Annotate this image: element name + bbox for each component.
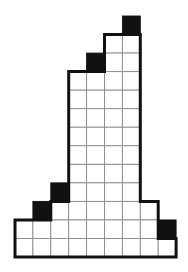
empty-cell [122, 109, 140, 128]
empty-cell [122, 53, 140, 72]
shaded-cell [33, 201, 51, 220]
empty-cell [105, 220, 123, 239]
empty-cell [105, 183, 123, 202]
empty-cell [122, 90, 140, 109]
empty-cell [69, 164, 87, 183]
empty-cell [69, 220, 87, 239]
empty-cell [105, 238, 123, 257]
empty-cell [51, 220, 69, 239]
empty-cell [122, 35, 140, 54]
empty-cell [158, 238, 176, 257]
empty-cell [105, 164, 123, 183]
empty-cell [69, 90, 87, 109]
empty-cell [105, 127, 123, 146]
empty-cell [69, 238, 87, 257]
empty-cell [87, 109, 105, 128]
empty-cell [122, 183, 140, 202]
empty-cell [33, 238, 51, 257]
empty-cell [33, 220, 51, 239]
empty-cell [140, 201, 158, 220]
empty-cell [69, 183, 87, 202]
empty-cell [105, 201, 123, 220]
empty-cell [105, 35, 123, 54]
empty-cell [105, 53, 123, 72]
empty-cell [122, 220, 140, 239]
shaded-cell [87, 53, 105, 72]
empty-cell [87, 146, 105, 165]
empty-cell [87, 238, 105, 257]
empty-cell [87, 220, 105, 239]
empty-cell [122, 201, 140, 220]
shaded-cell [51, 183, 69, 202]
empty-cell [105, 146, 123, 165]
empty-cell [87, 127, 105, 146]
empty-cell [15, 238, 33, 257]
empty-cell [69, 72, 87, 91]
empty-cell [87, 201, 105, 220]
grid-figure [0, 0, 188, 272]
empty-cell [105, 109, 123, 128]
empty-cell [122, 146, 140, 165]
empty-cell [69, 146, 87, 165]
empty-cell [15, 220, 33, 239]
empty-cell [140, 238, 158, 257]
empty-cell [87, 183, 105, 202]
empty-cell [87, 72, 105, 91]
shaded-cell [122, 16, 140, 35]
empty-cell [87, 164, 105, 183]
empty-cell [122, 72, 140, 91]
shaded-cell [158, 220, 176, 239]
empty-cell [105, 72, 123, 91]
empty-cell [105, 90, 123, 109]
empty-cell [140, 220, 158, 239]
empty-cell [51, 201, 69, 220]
empty-cell [122, 164, 140, 183]
empty-cell [87, 90, 105, 109]
empty-cell [69, 201, 87, 220]
empty-cell [69, 127, 87, 146]
empty-cell [51, 238, 69, 257]
empty-cell [122, 127, 140, 146]
empty-cell [122, 238, 140, 257]
empty-cell [69, 109, 87, 128]
